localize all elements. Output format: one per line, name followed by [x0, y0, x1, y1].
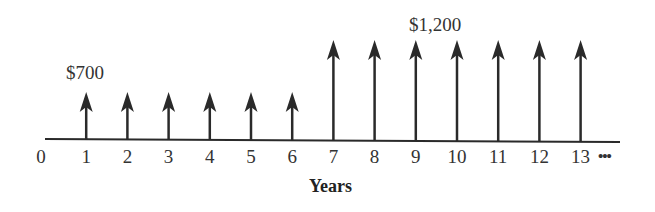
year-tick-label: 4 [205, 146, 215, 168]
year-tick-label: 13 [571, 146, 590, 168]
high-amount-label: $1,200 [409, 14, 461, 36]
continuation-dots: ••• [598, 148, 611, 165]
year-tick-label: 9 [411, 146, 421, 168]
year-tick-label: 3 [164, 146, 174, 168]
year-tick-label: 10 [448, 146, 467, 168]
cash-flow-arrows [80, 40, 587, 142]
year-tick-label: 5 [246, 146, 256, 168]
year-tick-label: 1 [81, 146, 91, 168]
year-tick-label: 8 [370, 146, 380, 168]
year-tick-label: 6 [287, 146, 297, 168]
year-tick-label: 0 [36, 146, 46, 168]
x-axis-label: Years [309, 176, 352, 197]
low-amount-label: $700 [66, 62, 104, 84]
year-tick-label: 11 [489, 146, 507, 168]
year-tick-label: 2 [123, 146, 133, 168]
year-tick-label: 7 [329, 146, 339, 168]
year-tick-label: 12 [530, 146, 549, 168]
